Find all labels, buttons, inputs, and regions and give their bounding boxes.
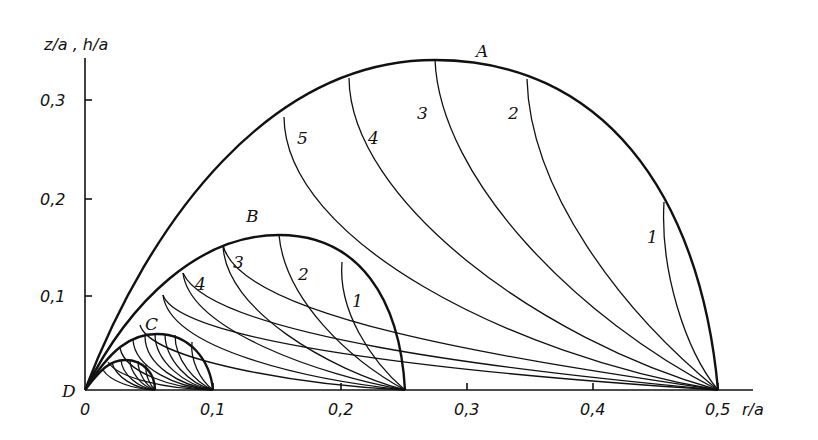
label-B-3: 3 bbox=[233, 252, 244, 272]
diagram-figure: 0 0,1 0,2 0,3 0,4 0,5 r/a 0,1 0,2 0,3 z/… bbox=[0, 0, 818, 440]
label-A-1: 1 bbox=[647, 227, 658, 247]
y-axis-label: z/a , h/a bbox=[43, 35, 108, 54]
x-tick-0.2: 0,2 bbox=[328, 400, 353, 419]
curve-B-4 bbox=[183, 273, 405, 390]
x-tick-0.3: 0,3 bbox=[454, 400, 479, 419]
y-tick-0.3: 0,3 bbox=[40, 91, 65, 110]
label-A-5: 5 bbox=[297, 128, 308, 148]
curve-B-5 bbox=[163, 295, 405, 390]
y-tick-0.1: 0,1 bbox=[40, 287, 65, 306]
label-A-3: 3 bbox=[417, 103, 428, 123]
x-axis-label: r/a bbox=[742, 400, 764, 419]
label-B-2: 2 bbox=[297, 264, 309, 284]
curve-A-3 bbox=[435, 60, 718, 390]
curve-A-1 bbox=[664, 202, 718, 390]
label-D: D bbox=[61, 381, 76, 401]
label-A-2: 2 bbox=[507, 103, 519, 123]
family-C-curves bbox=[108, 334, 213, 390]
label-A: A bbox=[474, 41, 488, 61]
envelope-A bbox=[85, 60, 718, 390]
label-C: C bbox=[145, 314, 158, 334]
origin-label: 0 bbox=[80, 400, 90, 419]
x-tick-0.5: 0,5 bbox=[705, 400, 730, 419]
label-B: B bbox=[245, 206, 259, 226]
y-ticks bbox=[85, 100, 92, 296]
curve-A-5 bbox=[284, 117, 718, 390]
curve-A-4 bbox=[349, 78, 718, 390]
label-B-4: 4 bbox=[194, 274, 206, 294]
label-B-1: 1 bbox=[352, 291, 363, 311]
x-ticks bbox=[213, 383, 718, 390]
label-A-4: 4 bbox=[367, 128, 379, 148]
x-tick-0.1: 0,1 bbox=[200, 400, 225, 419]
y-tick-0.2: 0,2 bbox=[40, 190, 65, 209]
curve-B-3 bbox=[223, 245, 405, 390]
curve-A-2 bbox=[527, 79, 718, 390]
x-tick-0.4: 0,4 bbox=[580, 400, 605, 419]
